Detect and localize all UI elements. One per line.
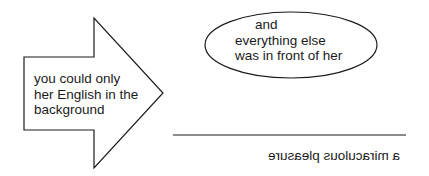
mirrored-caption: a miraculous pleasure xyxy=(262,148,406,163)
ellipse-label: and everything else was in front of her xyxy=(235,17,342,64)
arrow-label-line: her English in the xyxy=(34,87,138,103)
ellipse-label-line: and xyxy=(235,17,342,33)
arrow-label-line: background xyxy=(34,102,138,118)
arrow-label: you could only her English in the backgr… xyxy=(34,71,138,118)
ellipse-label-line: everything else xyxy=(235,33,342,49)
arrow-label-line: you could only xyxy=(34,71,138,87)
ellipse-label-line: was in front of her xyxy=(235,48,342,64)
